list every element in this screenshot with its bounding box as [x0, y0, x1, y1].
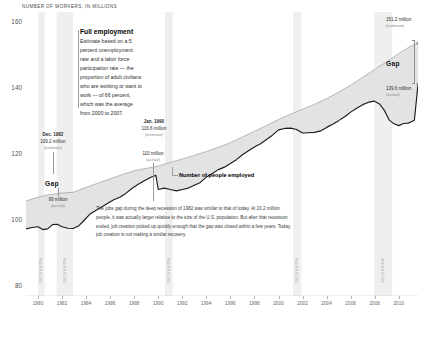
x-tick-label-1994: 1994: [201, 301, 212, 306]
y-tick-160: 160: [0, 19, 22, 25]
annotation-actual-99: 99 million (actual): [36, 196, 80, 210]
annotation-actual-139-value: 139.6 million: [386, 85, 426, 92]
annotation-jan-1990-kind: (estimate): [131, 132, 177, 139]
x-tick-label-1992: 1992: [177, 301, 188, 306]
y-tick-140: 140: [0, 85, 22, 91]
x-tick-2008: [375, 296, 376, 299]
annotation-actual-139-kind: (actual): [386, 92, 426, 99]
x-tick-label-1996: 1996: [225, 301, 236, 306]
chart-figure: NUMBER OF WORKERS, IN MILLIONS 160 140 1…: [0, 0, 428, 339]
annotation-dec-1982-value: 109.2 million: [30, 138, 76, 145]
y-tick-80: 80: [0, 283, 22, 289]
annotation-actual-139: 139.6 million (actual): [386, 85, 426, 99]
x-tick-label-1988: 1988: [129, 301, 140, 306]
leader-actual-110: [153, 163, 154, 201]
leader-actual-99: [58, 188, 59, 197]
x-tick-2010: [399, 296, 400, 299]
annotation-full-employment-body: Estimate based on a 5 percent unemployme…: [80, 37, 142, 117]
x-tick-label-1984: 1984: [81, 301, 92, 306]
x-tick-1984: [86, 296, 87, 299]
x-tick-2002: [303, 296, 304, 299]
y-tick-120: 120: [0, 151, 22, 157]
annotation-estimate-151-value: 151.2 million: [386, 16, 426, 23]
x-tick-label-2008: 2008: [369, 301, 380, 306]
x-tick-1986: [110, 296, 111, 299]
x-tick-1990: [158, 296, 159, 299]
y-tick-100: 100: [0, 217, 22, 223]
leader-series-v: [172, 167, 173, 176]
x-tick-label-1986: 1986: [105, 301, 116, 306]
recession-label-2: RECESSION: [63, 258, 67, 283]
recession-label-3: RECESSION: [167, 258, 171, 283]
x-tick-label-1990: 1990: [153, 301, 164, 306]
annotation-dec-1982-kind: (estimate): [30, 145, 76, 152]
x-tick-label-2006: 2006: [345, 301, 356, 306]
annotation-dec-1982: Dec. 1982 109.2 million (estimate): [30, 131, 76, 152]
annotation-jan-1990-value: 116.6 million: [131, 125, 177, 132]
gap-label-1982: Gap: [45, 180, 59, 187]
x-tick-label-1980: 1980: [33, 301, 44, 306]
leader-full-employment: [78, 30, 79, 108]
x-tick-1998: [254, 296, 255, 299]
annotation-actual-110-value: 110 million: [131, 150, 175, 157]
x-tick-label-2002: 2002: [297, 301, 308, 306]
annotation-actual-99-value: 99 million: [36, 196, 80, 203]
x-tick-2000: [279, 296, 280, 299]
x-tick-label-1982: 1982: [57, 301, 68, 306]
body-copy: The jobs gap during the deep recession o…: [96, 205, 294, 240]
annotation-estimate-151-kind: (estimate): [386, 23, 426, 30]
recession-label-4: RECESSION: [295, 258, 299, 283]
y-axis-title: NUMBER OF WORKERS, IN MILLIONS: [22, 4, 117, 9]
x-tick-label-1998: 1998: [249, 301, 260, 306]
x-tick-1988: [134, 296, 135, 299]
annotation-full-employment-title: Full employment: [80, 28, 142, 35]
annotation-actual-110: 110 million (actual): [131, 150, 175, 164]
series-label-employed: Number of people employed: [179, 172, 254, 178]
annotation-estimate-151: 151.2 million (estimate): [386, 16, 426, 30]
annotation-dec-1982-date: Dec. 1982: [30, 131, 76, 138]
leader-dec-1982: [53, 152, 54, 174]
x-tick-1994: [206, 296, 207, 299]
recession-label-1: RECESSION: [39, 258, 43, 283]
x-tick-1992: [182, 296, 183, 299]
annotation-jan-1990-date: Jan. 1990: [131, 118, 177, 125]
annotation-actual-99-kind: (actual): [36, 203, 80, 210]
x-tick-label-2000: 2000: [273, 301, 284, 306]
gap-label-today: Gap: [386, 60, 400, 67]
x-tick-label-2010: 2010: [393, 301, 404, 306]
x-tick-2006: [351, 296, 352, 299]
x-axis: 1980198219841986198819901992199419961998…: [26, 296, 418, 316]
leader-series-h: [172, 175, 178, 176]
x-tick-label-2004: 2004: [321, 301, 332, 306]
recession-label-5: RECESSION: [381, 258, 385, 283]
x-tick-2004: [327, 296, 328, 299]
x-tick-1982: [62, 296, 63, 299]
gap-brace: [412, 40, 415, 84]
annotation-jan-1990: Jan. 1990 116.6 million (estimate): [131, 118, 177, 139]
annotation-full-employment: Full employment Estimate based on a 5 pe…: [80, 28, 142, 118]
x-tick-1996: [230, 296, 231, 299]
x-tick-1980: [38, 296, 39, 299]
